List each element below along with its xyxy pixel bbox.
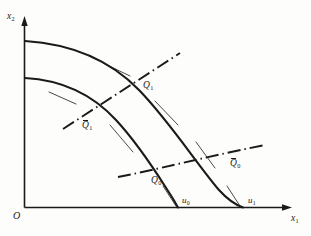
curve-label-u1: u1: [248, 196, 256, 207]
tangent-at-q1: [103, 63, 130, 76]
tangent-at-q1bar: [49, 92, 76, 104]
diagram-canvas: [0, 0, 311, 236]
point-label-q0-bar: Q0: [230, 159, 240, 169]
curve-u0: [25, 78, 178, 208]
origin-label: O: [13, 211, 20, 221]
x-axis-label: x1: [291, 214, 299, 224]
point-label-q1-bar: Q1: [82, 121, 92, 131]
transformation-curve-diagram: x2 x1 O Q1 Q1 Q0 Q0 u0 u1: [0, 0, 311, 236]
point-label-q1: Q1: [143, 81, 153, 91]
point-label-q0: Q0: [151, 176, 161, 186]
tangent-at-q0-2: [163, 186, 176, 206]
curve-u1: [25, 41, 243, 208]
y-axis-label: x2: [7, 12, 15, 22]
y-axis-arrowhead: [21, 16, 27, 26]
tangent-at-q0: [110, 125, 133, 152]
curve-label-u0: u0: [182, 196, 190, 207]
x-axis-arrowhead: [282, 204, 292, 211]
